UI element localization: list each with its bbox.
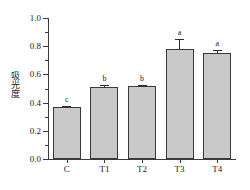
x-tick-mark: [217, 160, 218, 163]
bar-group: bT1: [90, 18, 118, 159]
y-tick-label: 0.2: [30, 126, 41, 136]
x-tick-label-t3: T3: [175, 164, 185, 174]
x-tick-label-c: C: [64, 164, 70, 174]
x-tick-label-t2: T2: [137, 164, 147, 174]
y-tick-label: 1.0: [30, 13, 41, 23]
y-minor-tick-mark: [45, 89, 48, 90]
bar-chart-figure: 吸光度 0.00.20.40.60.81.0 cCbT1bT2aT3aT4: [0, 0, 250, 190]
y-tick-label: 0.4: [30, 98, 41, 108]
bar-t3: [166, 49, 194, 159]
y-minor-tick-mark: [45, 117, 48, 118]
x-tick-mark: [142, 160, 143, 163]
bar-group: bT2: [128, 18, 156, 159]
significance-letter: a: [215, 39, 219, 48]
y-tick-mark: [43, 74, 48, 75]
plot-area: 0.00.20.40.60.81.0 cCbT1bT2aT3aT4: [48, 18, 236, 160]
x-tick-label-t4: T4: [212, 164, 222, 174]
error-bar-cap: [62, 106, 71, 107]
y-tick-mark: [43, 46, 48, 47]
y-axis-line: [48, 18, 49, 160]
x-tick-mark: [180, 160, 181, 163]
y-tick-label: 0.0: [30, 154, 41, 164]
significance-letter: b: [140, 74, 144, 83]
x-tick-label-t1: T1: [99, 164, 109, 174]
bar-t1: [90, 87, 118, 159]
significance-letter: a: [178, 28, 182, 37]
bar-c: [53, 107, 81, 159]
y-tick-mark: [43, 18, 48, 19]
y-tick-mark: [43, 131, 48, 132]
bar-t2: [128, 86, 156, 159]
x-tick-mark: [104, 160, 105, 163]
y-axis-label: 吸光度: [8, 58, 22, 110]
y-tick-label: 0.8: [30, 41, 41, 51]
y-tick-mark: [43, 159, 48, 160]
bar-t4: [203, 53, 231, 159]
bar-group: cC: [53, 18, 81, 159]
significance-letter: b: [102, 74, 106, 83]
significance-letter: c: [65, 95, 69, 104]
y-tick-label: 0.6: [30, 69, 41, 79]
x-tick-mark: [67, 160, 68, 163]
error-bar-cap: [138, 85, 147, 86]
bar-group: aT3: [166, 18, 194, 159]
error-bar-cap: [213, 50, 222, 51]
y-minor-tick-mark: [45, 60, 48, 61]
error-bar-cap: [100, 85, 109, 86]
y-tick-mark: [43, 103, 48, 104]
y-minor-tick-mark: [45, 145, 48, 146]
y-minor-tick-mark: [45, 32, 48, 33]
error-bar-stem: [179, 39, 180, 49]
error-bar-cap: [175, 39, 184, 40]
bar-group: aT4: [203, 18, 231, 159]
